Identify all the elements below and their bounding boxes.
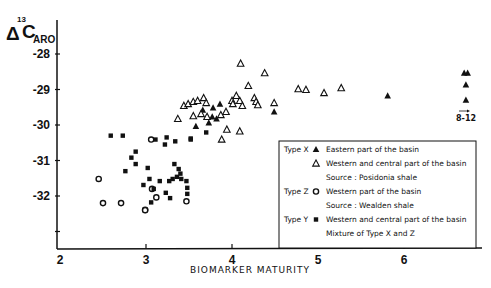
x-tick-label: 2: [57, 253, 64, 267]
y-tick-label: -32: [33, 189, 51, 203]
data-point-filled-triangle: [463, 97, 470, 103]
data-point-filled-square: [179, 177, 183, 181]
legend-row: Source : Posidonia shale: [326, 173, 417, 182]
legend-text: Western part of the basin: [326, 187, 422, 196]
legend-text: Western and central part of the basin: [326, 159, 467, 168]
y-tick-label: -29: [33, 83, 51, 97]
data-point-filled-square: [133, 162, 137, 166]
data-point-filled-square: [185, 186, 189, 190]
data-point-open-circle: [118, 201, 123, 206]
data-point-filled-triangle: [271, 108, 278, 114]
legend-row: Mixture of Type X and Z: [326, 229, 415, 238]
data-point-open-triangle: [224, 126, 231, 132]
arrow-head-icon: [467, 110, 470, 113]
data-point-open-triangle: [303, 86, 310, 92]
data-point-filled-square: [123, 169, 127, 173]
y-label-delta: Δ: [6, 23, 20, 44]
data-point-filled-square: [109, 133, 113, 137]
data-point-filled-square: [167, 179, 171, 183]
data-point-filled-square: [176, 167, 180, 171]
scatter-chart: Δ 13 C ARO -28-29-30-31-32 23456 BIOMARK…: [0, 0, 491, 288]
y-ticks: -28-29-30-31-32: [33, 47, 60, 232]
data-point-open-circle: [184, 199, 189, 204]
data-point-filled-square: [163, 142, 167, 146]
y-tick-label: -31: [33, 154, 51, 168]
x-tick-label: 5: [315, 253, 322, 267]
data-point-filled-square: [204, 130, 208, 134]
data-point-open-circle: [154, 195, 159, 200]
data-point-open-circle: [96, 176, 101, 181]
legend-type-label: Type X: [283, 145, 309, 154]
data-point-filled-square: [146, 166, 150, 170]
data-point-filled-square: [147, 177, 151, 181]
legend-text: Source : Wealden shale: [326, 201, 414, 210]
data-point-filled-square: [152, 187, 156, 191]
data-point-open-triangle: [237, 60, 244, 66]
data-point-filled-square: [153, 137, 157, 141]
legend: Type XEastern part of the basinWestern a…: [279, 141, 476, 248]
data-point-filled-square: [164, 135, 168, 139]
data-point-filled-square: [133, 149, 137, 153]
legend-type-label: Type Z: [283, 187, 309, 196]
data-point-open-circle: [143, 208, 148, 213]
y-tick-label: -30: [33, 118, 51, 132]
data-point-open-triangle: [295, 86, 302, 92]
data-point-open-triangle: [218, 136, 225, 142]
legend-text: Source : Posidonia shale: [326, 173, 417, 182]
data-point-filled-triangle: [210, 104, 217, 110]
data-point-open-triangle: [190, 113, 197, 119]
data-point-filled-triangle: [384, 92, 391, 98]
annotation-label: 8-12: [456, 114, 476, 123]
data-point-open-triangle: [321, 89, 328, 95]
legend-row: Western and central part of the basin: [313, 159, 467, 168]
data-point-filled-square: [158, 179, 162, 183]
data-point-filled-triangle: [205, 119, 212, 125]
data-point-filled-square: [184, 179, 188, 183]
data-point-filled-triangle: [463, 81, 470, 87]
data-point-filled-square: [173, 139, 177, 143]
data-point-filled-square: [172, 162, 176, 166]
data-point-filled-square: [189, 137, 193, 141]
data-point-open-triangle: [223, 108, 230, 114]
data-point-filled-square: [129, 155, 133, 159]
legend-marker-open-circle-icon: [313, 189, 318, 194]
y-tick-label: -28: [33, 47, 51, 61]
data-point-open-triangle: [271, 99, 278, 105]
data-point-filled-triangle: [217, 100, 224, 106]
data-point-filled-square: [175, 175, 179, 179]
legend-marker-filled-square-icon: [314, 217, 318, 221]
x-tick-label: 3: [143, 253, 150, 267]
legend-row: Type XEastern part of the basin: [283, 145, 419, 154]
data-point-filled-square: [121, 133, 125, 137]
data-point-filled-triangle: [193, 123, 200, 129]
data-point-filled-square: [168, 196, 172, 200]
legend-type-label: Type Y: [283, 215, 309, 224]
y-axis-label: Δ 13 C ARO: [6, 15, 55, 45]
data-point-open-circle: [149, 137, 154, 142]
data-point-open-triangle: [236, 128, 243, 134]
data-point-filled-square: [141, 183, 145, 187]
data-point-open-triangle: [233, 92, 240, 98]
y-label-sub: ARO: [33, 34, 55, 45]
data-point-filled-square: [149, 200, 153, 204]
legend-text: Western and central part of the basin: [326, 215, 467, 224]
x-tick-label: 6: [401, 253, 408, 267]
data-point-open-triangle: [338, 84, 345, 90]
legend-row: Type ZWestern part of the basin: [283, 187, 422, 196]
annotation-8-12: 8-12: [456, 110, 476, 124]
data-point-open-triangle: [261, 70, 268, 76]
data-point-open-circle: [100, 201, 105, 206]
x-axis-title: BIOMARKER MATURITY: [190, 265, 310, 275]
data-point-open-triangle: [175, 115, 182, 121]
data-point-filled-square: [164, 191, 168, 195]
legend-row: Source : Wealden shale: [326, 201, 414, 210]
data-point-open-triangle: [245, 82, 252, 88]
legend-text: Eastern part of the basin: [326, 145, 419, 154]
legend-text: Mixture of Type X and Z: [326, 229, 415, 238]
data-point-filled-square: [185, 192, 189, 196]
